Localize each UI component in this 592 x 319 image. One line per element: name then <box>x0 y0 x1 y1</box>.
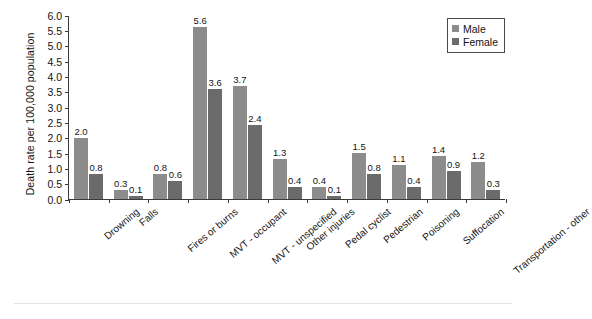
bar-value-label: 0.6 <box>169 169 182 180</box>
y-tick-label: 5.0 <box>47 40 62 52</box>
x-tick-mark <box>347 199 348 203</box>
bar-male[interactable]: 1.4 <box>432 156 446 199</box>
bar-value-label: 0.4 <box>288 175 301 186</box>
bar-group: 1.10.4 <box>387 16 427 199</box>
x-tick-mark <box>466 199 467 203</box>
bar-female[interactable]: 0.4 <box>407 187 421 199</box>
x-axis-label: Falls <box>137 206 160 228</box>
bar-female[interactable]: 0.1 <box>129 196 143 199</box>
bar-value-label: 0.8 <box>154 162 167 173</box>
x-axis-label: Drowning <box>102 206 141 242</box>
bar-male[interactable]: 0.8 <box>153 174 167 199</box>
bar-group: 0.80.6 <box>148 16 188 199</box>
y-tick-label: 2.0 <box>47 132 62 144</box>
bar-group: 1.30.4 <box>268 16 308 199</box>
bar-value-label: 0.8 <box>367 162 380 173</box>
x-tick-mark <box>307 199 308 203</box>
legend-swatch-male-icon <box>452 25 459 32</box>
bar-value-label: 3.7 <box>233 74 246 85</box>
bar-group: 2.00.8 <box>69 16 109 199</box>
bar-female[interactable]: 0.8 <box>367 174 381 199</box>
bar-group: 3.72.4 <box>228 16 268 199</box>
legend-item-female[interactable]: Female <box>452 35 498 48</box>
y-tick-label: 2.5 <box>47 117 62 129</box>
y-tick-label: 0.0 <box>47 194 62 206</box>
bar-male[interactable]: 5.6 <box>193 27 207 199</box>
bar-value-label: 0.8 <box>89 162 102 173</box>
x-tick-mark <box>387 199 388 203</box>
bar-value-label: 2.4 <box>248 113 261 124</box>
legend-item-male[interactable]: Male <box>452 22 498 35</box>
x-tick-mark <box>228 199 229 203</box>
bar-group: 1.50.8 <box>347 16 387 199</box>
x-tick-mark <box>268 199 269 203</box>
bar-female[interactable]: 3.6 <box>208 89 222 199</box>
bar-male[interactable]: 2.0 <box>74 138 88 199</box>
legend-label-female: Female <box>463 36 498 48</box>
bar-male[interactable]: 1.5 <box>352 153 366 199</box>
bar-group: 0.30.1 <box>109 16 149 199</box>
bar-value-label: 1.3 <box>273 147 286 158</box>
bar-female[interactable]: 0.1 <box>327 196 341 199</box>
y-axis-title: Death rate per 100,000 population <box>24 14 36 214</box>
bar-group: 5.63.6 <box>188 16 228 199</box>
bar-value-label: 0.3 <box>114 178 127 189</box>
bar-value-label: 2.0 <box>74 126 87 137</box>
x-tick-mark <box>427 199 428 203</box>
y-tick-label: 4.0 <box>47 71 62 83</box>
x-tick-mark <box>506 199 507 203</box>
bar-value-label: 1.5 <box>352 141 365 152</box>
legend-swatch-female-icon <box>452 38 459 45</box>
y-tick-label: 0.5 <box>47 178 62 190</box>
bar-male[interactable]: 0.4 <box>312 187 326 199</box>
x-axis-label: Poisoning <box>420 206 461 243</box>
y-tick-label: 6.0 <box>47 10 62 22</box>
bar-value-label: 1.1 <box>392 153 405 164</box>
bar-value-label: 0.9 <box>447 159 460 170</box>
x-tick-mark <box>188 199 189 203</box>
legend: Male Female <box>447 18 505 53</box>
bars-layer: 2.00.80.30.10.80.65.63.63.72.41.30.40.40… <box>69 16 505 199</box>
legend-label-male: Male <box>463 23 486 35</box>
bar-value-label: 0.1 <box>129 184 142 195</box>
bar-male[interactable]: 1.1 <box>392 165 406 199</box>
y-tick-label: 3.0 <box>47 102 62 114</box>
bar-female[interactable]: 0.8 <box>89 174 103 199</box>
bar-value-label: 0.4 <box>407 175 420 186</box>
bar-male[interactable]: 0.3 <box>114 190 128 199</box>
y-tick-label: 4.5 <box>47 56 62 68</box>
bar-female[interactable]: 0.3 <box>486 190 500 199</box>
bar-male[interactable]: 1.3 <box>273 159 287 199</box>
x-tick-mark <box>148 199 149 203</box>
bar-value-label: 1.4 <box>432 144 445 155</box>
y-tick-label: 3.5 <box>47 86 62 98</box>
bar-value-label: 3.6 <box>209 77 222 88</box>
bar-female[interactable]: 0.6 <box>168 181 182 199</box>
x-tick-mark <box>109 199 110 203</box>
x-axis-label: Transportation - other <box>512 206 592 276</box>
y-tick-label: 5.5 <box>47 25 62 37</box>
bar-value-label: 0.1 <box>328 184 341 195</box>
bar-female[interactable]: 2.4 <box>248 125 262 199</box>
y-tick-label: 1.0 <box>47 163 62 175</box>
bar-value-label: 5.6 <box>194 15 207 26</box>
bar-value-label: 0.4 <box>313 175 326 186</box>
bar-group: 0.40.1 <box>307 16 347 199</box>
bar-male[interactable]: 3.7 <box>233 86 247 199</box>
bar-female[interactable]: 0.4 <box>288 187 302 199</box>
y-tick-label: 1.5 <box>47 148 62 160</box>
plot-area: 0.00.51.01.52.02.53.03.54.04.55.05.56.0 … <box>68 16 505 200</box>
bar-female[interactable]: 0.9 <box>447 171 461 199</box>
page-divider <box>14 303 512 304</box>
bar-value-label: 1.2 <box>472 150 485 161</box>
bar-value-label: 0.3 <box>487 178 500 189</box>
bar-male[interactable]: 1.2 <box>471 162 485 199</box>
x-axis-label: Suffocation <box>461 206 506 246</box>
x-tick-mark <box>69 199 70 203</box>
